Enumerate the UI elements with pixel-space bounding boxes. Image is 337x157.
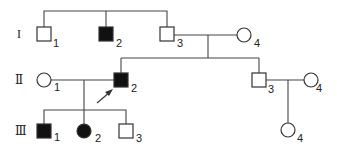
gen1-lines <box>44 11 259 73</box>
individual-II2-affected-male-proband <box>114 73 128 87</box>
individual-number-II2: 2 <box>131 82 137 94</box>
individual-I1-unaffected-male <box>37 27 51 41</box>
individual-number-II3: 3 <box>268 83 274 95</box>
individual-I2-affected-male <box>99 27 113 41</box>
individual-number-I2: 2 <box>116 37 122 49</box>
individual-number-II1: 1 <box>54 81 60 93</box>
individual-number-I4: 4 <box>254 37 260 49</box>
individual-number-III4: 4 <box>297 132 303 144</box>
individual-III2-affected-female <box>77 124 91 138</box>
gen3-sibship-line <box>44 110 126 124</box>
individual-number-I1: 1 <box>53 37 59 49</box>
individual-I4-unaffected-female <box>237 28 251 42</box>
generation-label-2: Ⅱ <box>15 73 23 87</box>
individual-number-III2: 2 <box>95 132 101 144</box>
generation-label-3: Ⅲ <box>15 124 27 138</box>
pedigree-diagram: I Ⅱ Ⅲ 1 2 3 4 1 2 3 4 <box>0 0 337 157</box>
individual-II1-unaffected-female <box>37 73 51 87</box>
individual-I3-unaffected-male <box>160 27 174 41</box>
proband-arrow-icon <box>97 89 113 103</box>
individual-III1-affected-male <box>37 124 51 138</box>
individual-number-I3: 3 <box>177 37 183 49</box>
individual-II3-unaffected-male <box>252 73 266 87</box>
individual-III3-unaffected-male <box>119 124 133 138</box>
individual-number-III1: 1 <box>54 131 60 143</box>
individual-number-II4: 4 <box>316 82 322 94</box>
individual-number-III3: 3 <box>136 132 142 144</box>
generation-label-1: I <box>17 27 21 41</box>
individual-III4-unaffected-female <box>281 123 295 137</box>
